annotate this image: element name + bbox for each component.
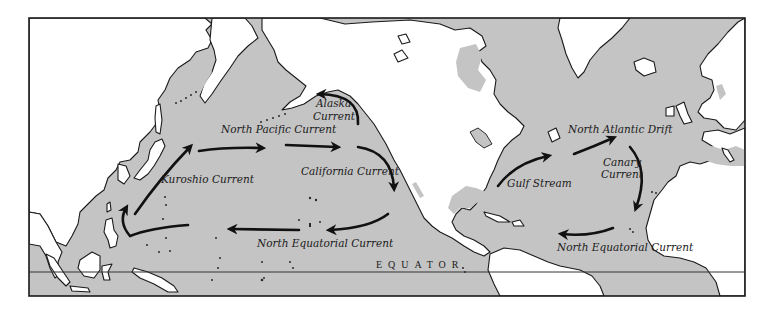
label-alaska-current-line2: Current bbox=[313, 110, 356, 122]
label-california-current: California Current bbox=[301, 165, 400, 177]
label-gulf-stream: Gulf Stream bbox=[507, 177, 572, 189]
equator-label: EQUATOR bbox=[376, 259, 464, 270]
label-kuroshio-current: Kuroshio Current bbox=[160, 173, 255, 185]
north-equatorial-pacific-arrow-2-icon bbox=[231, 229, 299, 230]
island-sakhalin bbox=[155, 104, 162, 134]
label-canary-current-line2: Current bbox=[601, 168, 644, 180]
ocean-currents-map: EQUATOR North Pacific CurrentAlaskaCurre… bbox=[0, 0, 773, 317]
label-north-equatorial-current-pacific: North Equatorial Current bbox=[256, 237, 394, 249]
label-north-atlantic-drift: North Atlantic Drift bbox=[567, 123, 673, 135]
label-north-pacific-current: North Pacific Current bbox=[220, 123, 337, 135]
label-north-equatorial-current-atlantic: North Equatorial Current bbox=[556, 241, 694, 253]
label-canary-current-line1: Canary bbox=[603, 156, 642, 168]
island-taiwan bbox=[107, 202, 111, 212]
label-alaska-current-line1: Alaska bbox=[315, 97, 351, 109]
island-ireland bbox=[666, 106, 674, 116]
